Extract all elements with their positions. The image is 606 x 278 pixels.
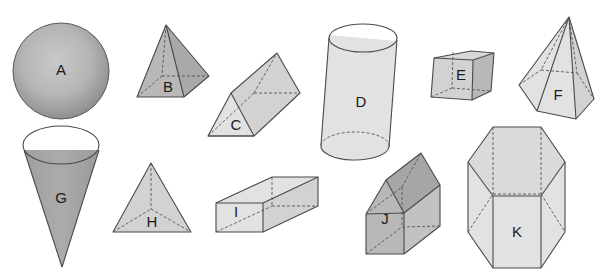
shape-f-pentagonal-pyramid: F (519, 17, 594, 119)
geometric-solids-diagram: A B C D (0, 0, 606, 278)
label-k: K (512, 223, 522, 240)
shape-d-cylinder: D (320, 24, 397, 160)
label-a: A (56, 61, 66, 78)
shape-i-rectangular-prism: I (216, 177, 318, 232)
shape-k-hexagonal-prism: K (468, 127, 565, 268)
label-b: B (163, 78, 173, 95)
label-g: G (55, 189, 67, 206)
shape-a-sphere: A (13, 23, 109, 119)
label-j: J (381, 210, 389, 227)
shape-c-triangular-prism: C (208, 53, 300, 136)
label-f: F (553, 86, 562, 103)
shape-e-cube: E (431, 51, 494, 100)
shape-j-pentagonal-prism: J (366, 153, 440, 254)
shape-h-triangular-pyramid: H (113, 163, 191, 232)
shape-g-cone: G (23, 126, 99, 267)
label-d: D (356, 93, 367, 110)
label-e: E (456, 66, 466, 83)
label-h: H (147, 213, 158, 230)
label-i: I (234, 203, 238, 220)
shape-b-square-pyramid: B (137, 25, 209, 97)
label-c: C (231, 116, 242, 133)
